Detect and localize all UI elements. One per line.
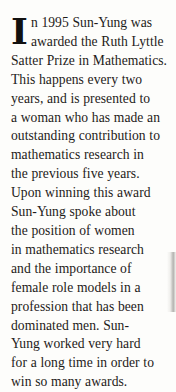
- text-line: outstanding contribution to: [11, 127, 169, 146]
- text-line: in mathematics research: [11, 241, 169, 260]
- text-line: a woman who has made an: [11, 109, 169, 128]
- text-line: female role models in a: [11, 279, 169, 298]
- text-line: and the importance of: [11, 260, 169, 279]
- text-line: Yung worked very hard: [11, 335, 169, 354]
- text-line: the position of women: [11, 222, 169, 241]
- text-line: win so many awards.: [11, 373, 169, 392]
- text-line: awarded the Ruth Lyttle: [11, 33, 169, 52]
- text-line: the previous five years.: [11, 165, 169, 184]
- text-line: for a long time in order to: [11, 354, 169, 373]
- text-line: n 1995 Sun-Yung was: [11, 14, 169, 33]
- text-line: years, and is presented to: [11, 90, 169, 109]
- text-line: This happens every two: [11, 71, 169, 90]
- paragraph-body-text: In 1995 Sun-Yung wasawarded the Ruth Lyt…: [11, 14, 169, 392]
- text-line: Sun-Yung spoke about: [11, 203, 169, 222]
- text-line: dominated men. Sun-: [11, 317, 169, 336]
- text-line: Satter Prize in Mathematics.: [11, 52, 169, 71]
- text-line: profession that has been: [11, 298, 169, 317]
- scanned-book-page: In 1995 Sun-Yung wasawarded the Ruth Lyt…: [0, 0, 176, 392]
- text-line: mathematics research in: [11, 146, 169, 165]
- text-line: Upon winning this award: [11, 184, 169, 203]
- drop-cap-letter: I: [11, 15, 31, 47]
